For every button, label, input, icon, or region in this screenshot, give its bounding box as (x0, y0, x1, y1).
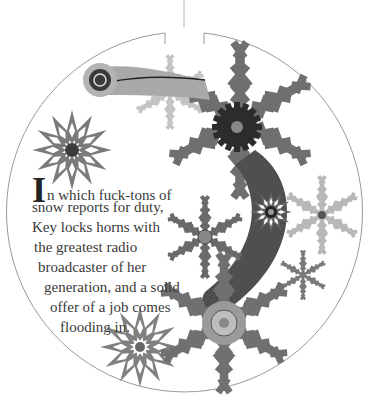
epigraph-line-7: offer of a job comes (50, 297, 171, 317)
epigraph-line-4: the greatest radio (34, 237, 137, 257)
epigraph-line-5: broadcaster of her (38, 257, 146, 277)
epigraph-line-2: snow reports for duty, (32, 197, 164, 217)
epigraph-line-6: generation, and a solid (44, 277, 180, 297)
epigraph-line-3: Key locks horns with (32, 217, 160, 237)
epigraph-line-8: flooding in. (60, 317, 130, 337)
